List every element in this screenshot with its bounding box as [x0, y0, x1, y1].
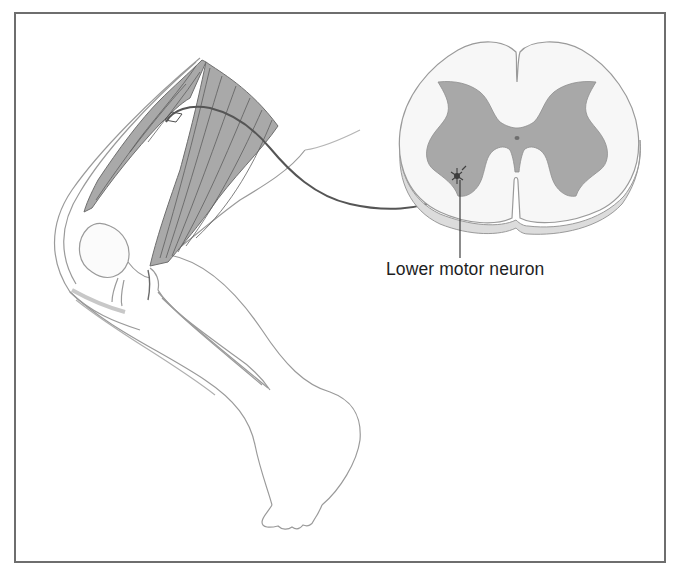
anatomy-illustration [0, 0, 673, 571]
spinal-cord-cross-section [399, 42, 640, 258]
foot-outline [262, 505, 322, 529]
shin-outline [70, 292, 272, 505]
patella [79, 224, 129, 278]
lower-motor-neuron-label: Lower motor neuron [386, 259, 544, 280]
central-canal [515, 136, 520, 140]
calf-outline [170, 255, 360, 505]
